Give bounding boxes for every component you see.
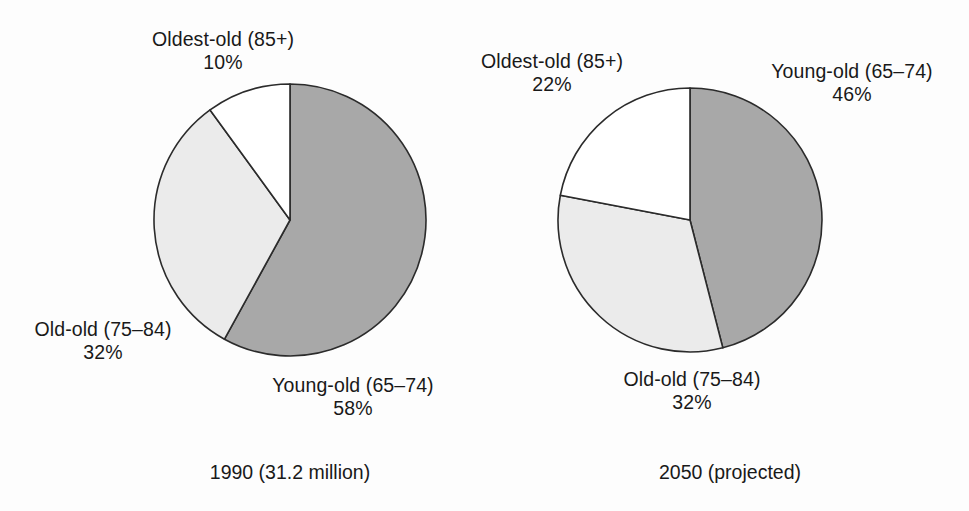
pie-2050-oldest-old-name: Oldest-old (85+): [481, 50, 623, 72]
pie-1990-label-old-old: Old-old (75–84) 32%: [8, 318, 198, 364]
pie-2050-old-old-name: Old-old (75–84): [624, 368, 761, 390]
figure-canvas: Oldest-old (85+) 10% Old-old (75–84) 32%…: [0, 0, 969, 511]
pie-2050-label-young-old: Young-old (65–74) 46%: [742, 60, 962, 106]
pie-2050-label-old-old: Old-old (75–84) 32%: [592, 368, 792, 414]
pie-1990-graphic: [0, 0, 485, 511]
pie-2050-young-old-name: Young-old (65–74): [771, 60, 932, 82]
pie-2050-caption: 2050 (projected): [600, 461, 860, 484]
pie-2050-old-old-value: 32%: [592, 391, 792, 414]
pie-2050-label-oldest-old: Oldest-old (85+) 22%: [452, 50, 652, 96]
pie-2050-oldest-old-value: 22%: [452, 73, 652, 96]
pie-1990-label-oldest-old: Oldest-old (85+) 10%: [118, 28, 328, 74]
pie-1990-oldest-old-name: Oldest-old (85+): [152, 28, 294, 50]
pie-1990-label-young-old: Young-old (65–74) 58%: [242, 374, 464, 420]
pie-chart-1990: Oldest-old (85+) 10% Old-old (75–84) 32%…: [0, 0, 485, 511]
pie-1990-old-old-name: Old-old (75–84): [35, 318, 172, 340]
pie-1990-young-old-value: 58%: [242, 397, 464, 420]
pie-2050-young-old-value: 46%: [742, 83, 962, 106]
pie-1990-young-old-name: Young-old (65–74): [272, 374, 433, 396]
pie-1990-caption: 1990 (31.2 million): [160, 461, 420, 484]
pie-1990-old-old-value: 32%: [8, 341, 198, 364]
pie-1990-oldest-old-value: 10%: [118, 51, 328, 74]
